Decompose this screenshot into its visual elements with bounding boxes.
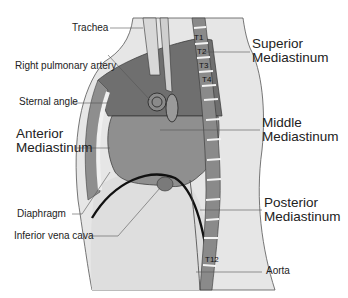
label-trachea: Trachea (72, 23, 108, 34)
vertebra-t12: T12 (205, 255, 219, 264)
label-superior-mediastinum-2: Mediastinum (252, 51, 329, 65)
vertebra-t3: T3 (199, 61, 209, 70)
label-aorta: Aorta (266, 266, 290, 277)
vertebra-t2: T2 (197, 47, 207, 56)
pulmonary-artery-circle (148, 93, 166, 111)
label-sternal-angle: Sternal angle (19, 97, 78, 108)
label-inferior-vena-cava: Inferior vena cava (14, 231, 94, 242)
label-middle-mediastinum-2: Mediastinum (262, 130, 339, 144)
label-right-pulmonary-artery: Right pulmonary artery (15, 61, 116, 72)
bronchus (166, 94, 178, 122)
vertebra-t1: T1 (194, 33, 204, 42)
label-posterior-mediastinum-2: Mediastinum (264, 210, 341, 224)
label-diaphragm: Diaphragm (17, 209, 66, 220)
vertebra-t4: T4 (202, 75, 212, 84)
label-anterior-mediastinum-2: Mediastinum (16, 141, 93, 155)
